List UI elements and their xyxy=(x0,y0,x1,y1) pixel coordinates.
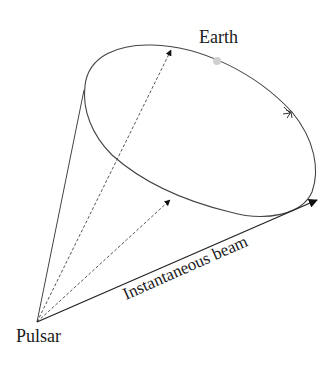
cone-left-edge xyxy=(37,90,84,322)
cone-ellipse xyxy=(84,45,315,216)
earth-label: Earth xyxy=(199,27,238,47)
earth-dot xyxy=(213,57,221,65)
dashed-beam-middle xyxy=(37,200,170,322)
beam-label: Instantaneous beam xyxy=(120,232,251,304)
pulsar-beam-diagram: Earth Pulsar Instantaneous beam xyxy=(0,0,336,369)
pulsar-label: Pulsar xyxy=(16,326,61,346)
